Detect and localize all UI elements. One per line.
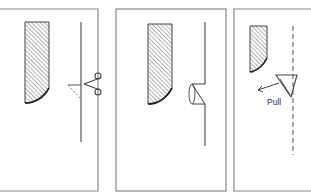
panel-1-cut xyxy=(0,9,101,191)
flap-inner-line xyxy=(280,79,290,95)
pull-label: Pull xyxy=(267,97,281,107)
panel-3-pull: Pull xyxy=(234,9,311,191)
blade-hatched xyxy=(25,22,49,103)
pulled-flap xyxy=(276,75,297,97)
three-panel-diagram: Pull xyxy=(0,0,311,195)
pull-arrow xyxy=(258,83,279,92)
panel-2-fold xyxy=(116,9,226,191)
flap-curl xyxy=(189,84,195,104)
blade-hatched xyxy=(148,24,172,104)
fold-dashed-line xyxy=(68,85,80,98)
blade-hatched xyxy=(250,26,267,72)
